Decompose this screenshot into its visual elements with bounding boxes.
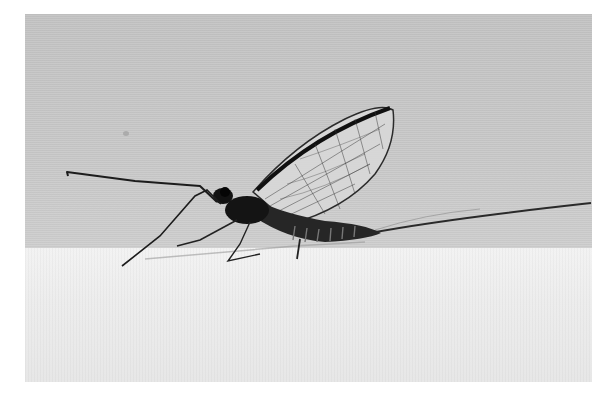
tail-filament-blur [375, 209, 480, 230]
shadow [145, 242, 365, 259]
mayfly [25, 14, 592, 382]
tail-filament [370, 203, 591, 233]
cropped-caption-text [60, 393, 300, 401]
mayfly-photograph [25, 14, 592, 382]
eye [220, 187, 230, 197]
midleg [177, 220, 237, 246]
hindleg [228, 222, 260, 261]
hindleg-2 [297, 239, 300, 259]
foreleg-2 [122, 190, 221, 266]
wing [253, 107, 394, 224]
thorax [225, 196, 269, 224]
